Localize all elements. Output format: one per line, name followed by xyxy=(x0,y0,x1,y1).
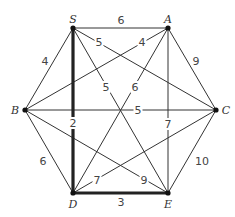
edge-c-e xyxy=(168,110,216,193)
edge-weight-a-b: 4 xyxy=(139,36,146,49)
edge-a-c xyxy=(168,28,216,110)
node-label-s: S xyxy=(69,13,77,26)
weighted-graph-diagram: 6452549675697103 SABCDE xyxy=(0,0,235,217)
edge-weight-s-d: 2 xyxy=(70,117,77,130)
edge-weight-a-c: 9 xyxy=(193,55,200,68)
node-d xyxy=(70,190,75,195)
edge-weight-d-e: 3 xyxy=(118,196,125,209)
edge-weight-a-d: 6 xyxy=(132,81,139,94)
edge-weight-s-a: 6 xyxy=(118,14,125,27)
edge-weight-a-e: 7 xyxy=(165,118,172,131)
edge-weight-s-e: 5 xyxy=(103,81,110,94)
node-a xyxy=(165,25,170,30)
node-c xyxy=(213,107,218,112)
node-label-a: A xyxy=(163,13,172,26)
edge-b-d xyxy=(25,110,73,193)
edge-weight-s-c: 5 xyxy=(96,36,103,49)
edge-weight-b-d: 6 xyxy=(40,155,47,168)
edges-layer xyxy=(25,28,216,193)
node-e xyxy=(165,190,170,195)
node-label-c: C xyxy=(222,104,231,117)
edge-weight-s-b: 4 xyxy=(42,55,49,68)
edge-weight-b-c: 5 xyxy=(135,104,142,117)
node-label-b: B xyxy=(10,104,19,117)
node-label-e: E xyxy=(163,198,172,211)
node-b xyxy=(22,107,27,112)
edge-weight-c-e: 10 xyxy=(195,155,209,168)
node-s xyxy=(70,25,75,30)
node-label-d: D xyxy=(68,198,78,211)
edge-weight-b-e: 9 xyxy=(141,174,148,187)
edge-weight-c-d: 7 xyxy=(94,174,101,187)
edge-s-b xyxy=(25,28,73,110)
